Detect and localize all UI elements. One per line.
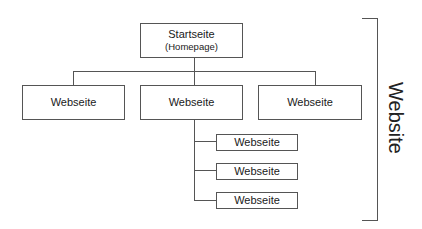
connector-root-down — [194, 58, 195, 72]
subpage-box-3: Webseite — [216, 192, 298, 209]
connector-middle-drop — [194, 71, 195, 85]
bracket-top — [362, 18, 378, 19]
webpage-label: Webseite — [51, 96, 97, 109]
bracket-bottom — [362, 220, 378, 221]
webpage-label: Webseite — [169, 96, 215, 109]
connector-right-drop — [315, 71, 316, 85]
connector-left-drop — [73, 71, 74, 85]
connector-child-1 — [194, 141, 216, 142]
connector-child-3 — [194, 200, 216, 201]
connector-child-2 — [194, 170, 216, 171]
subpage-label: Webseite — [234, 136, 280, 149]
website-label: Website — [386, 82, 406, 122]
homepage-box: Startseite (Homepage) — [140, 23, 243, 58]
bracket-vertical — [377, 18, 378, 221]
homepage-subtitle: (Homepage) — [165, 41, 218, 53]
subpage-box-2: Webseite — [216, 163, 298, 180]
subpage-box-1: Webseite — [216, 134, 298, 151]
homepage-title: Startseite — [168, 28, 214, 41]
webpage-box-left: Webseite — [22, 85, 125, 120]
webpage-box-right: Webseite — [258, 85, 362, 120]
subpage-label: Webseite — [234, 165, 280, 178]
webpage-label: Webseite — [287, 96, 333, 109]
webpage-box-middle: Webseite — [140, 85, 243, 120]
subpage-label: Webseite — [234, 194, 280, 207]
connector-children-vertical — [194, 120, 195, 201]
